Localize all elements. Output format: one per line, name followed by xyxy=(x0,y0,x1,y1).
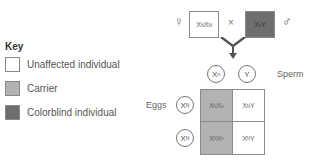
punnett-square: XNXn XNY XNXn XNY xyxy=(200,89,265,155)
allele-base: Y xyxy=(244,70,249,79)
cross-arrow-icon xyxy=(215,37,255,61)
female-symbol-icon: ♀ xyxy=(174,14,184,29)
key-item-unaffected: Unaffected individual xyxy=(5,55,120,73)
allele-base: Y xyxy=(261,21,265,28)
punnett-cell-carrier-female: XNXn xyxy=(201,122,233,154)
sperm-gamete-y: Y xyxy=(238,65,256,83)
eggs-label: Eggs xyxy=(146,100,167,110)
carrier-swatch xyxy=(5,81,20,96)
sperm-gamete-xn: Xn xyxy=(207,65,225,83)
key-label: Colorblind individual xyxy=(27,107,117,118)
allele-base: X xyxy=(242,102,246,109)
punnett-cell-carrier-female: XNXn xyxy=(201,90,233,122)
cross-times-symbol: × xyxy=(228,17,234,28)
unaffected-swatch xyxy=(5,57,20,72)
key-item-carrier: Carrier xyxy=(5,79,58,97)
sperm-label: Sperm xyxy=(277,69,304,79)
egg-gamete-1: XN xyxy=(176,96,194,114)
key-item-colorblind: Colorblind individual xyxy=(5,103,117,121)
allele-base: Y xyxy=(250,102,254,109)
key-label: Unaffected individual xyxy=(27,59,120,70)
allele-base: X xyxy=(242,135,246,142)
egg-gamete-2: XN xyxy=(176,129,194,147)
female-genotype-box: XNXN xyxy=(189,11,219,38)
allele-base: Y xyxy=(250,135,254,142)
male-genotype-box: XnY xyxy=(245,11,275,38)
punnett-cell-unaffected-male: XNY xyxy=(233,90,265,122)
punnett-cell-unaffected-male: XNY xyxy=(233,122,265,154)
key-title: Key xyxy=(5,41,23,52)
colorblind-swatch xyxy=(5,105,20,120)
male-symbol-icon: ♂ xyxy=(282,14,292,29)
key-label: Carrier xyxy=(27,83,58,94)
